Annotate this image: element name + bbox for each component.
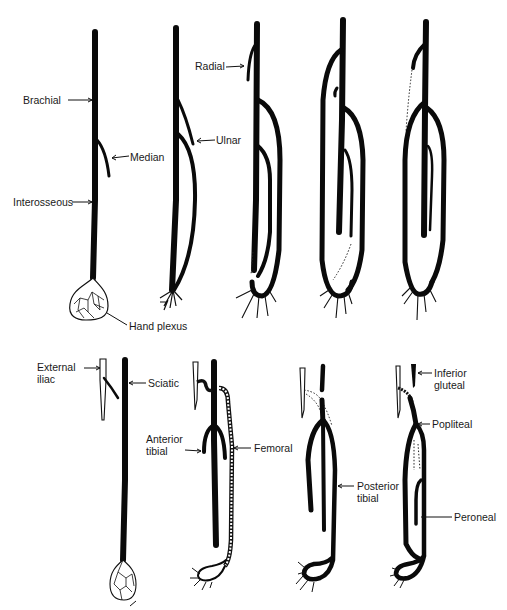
lower-stage-4: [390, 364, 452, 588]
stage4-peroneal: [416, 480, 421, 524]
label-external-iliac-line2: iliac: [37, 373, 76, 385]
label-anterior-tibial-line1: Anterior: [146, 433, 183, 445]
stage3-dotted-fem: [304, 390, 332, 426]
label-popliteal: Popliteal: [432, 418, 472, 430]
stage5-digits: [402, 286, 436, 320]
stage5-ulnar-loop: [427, 108, 444, 282]
stage4-ext-iliac: [396, 366, 400, 418]
brachial-axis-artery: [93, 32, 95, 278]
upper-stage-1: [68, 32, 129, 325]
inferior-gluteal-stub: [411, 364, 416, 388]
lower-stage-3: [296, 366, 354, 592]
foot-plexus: [110, 560, 136, 600]
label-inferior-gluteal-line2: gluteal: [434, 379, 467, 391]
stage2-hand-branches: [160, 290, 182, 310]
label-posterior-tibial-line2: tibial: [357, 492, 399, 504]
lower-stage-1: [84, 359, 146, 606]
external-iliac-bud: [100, 359, 106, 420]
external-iliac-arrow: [84, 366, 100, 370]
stage2-ext-iliac-loop: [197, 381, 212, 391]
stage4-interosseous-stub: [335, 88, 337, 96]
label-anterior-tibial-line2: tibial: [146, 445, 183, 457]
label-interosseous: Interosseous: [13, 196, 73, 208]
stage3-median-loop: [258, 146, 270, 276]
label-ulnar: Ulnar: [216, 134, 241, 146]
stage5-median: [428, 146, 432, 230]
label-posterior-tibial: Posterior tibial: [357, 480, 399, 504]
label-external-iliac: External iliac: [37, 361, 76, 385]
stage3-ext-iliac: [300, 368, 305, 418]
interosseous-arrow: [72, 200, 92, 204]
stage3-sciatic-stub: [322, 366, 323, 390]
label-median: Median: [130, 151, 164, 163]
upper-stage-5: [402, 22, 444, 320]
ulnar-arrow: [197, 138, 215, 143]
sciatic-axis-artery: [123, 360, 125, 560]
foot-plexus-arrow: [130, 601, 136, 606]
label-peroneal: Peroneal: [454, 511, 496, 523]
stage4-dotted-median-remnant: [333, 244, 351, 280]
upper-stage-3: [226, 24, 280, 318]
artery-development-diagram: [0, 0, 507, 610]
stage4-dotted-remnant: [414, 440, 420, 470]
label-anterior-tibial: Anterior tibial: [146, 433, 183, 457]
label-radial: Radial: [195, 60, 225, 72]
stage2-ext-iliac: [193, 362, 198, 410]
anterior-tibial-arrow: [185, 449, 201, 453]
stage3-mid-branch: [323, 420, 324, 530]
label-posterior-tibial-line1: Posterior: [357, 480, 399, 492]
median-arrow: [112, 155, 129, 160]
label-inferior-gluteal-line1: Inferior: [434, 367, 467, 379]
hand-plexus-arrow: [107, 313, 127, 325]
stage2-axis: [172, 28, 176, 290]
upper-stage-4: [320, 20, 363, 318]
label-sciatic: Sciatic: [148, 377, 179, 389]
label-hand-plexus: Hand plexus: [129, 320, 187, 332]
stage5-radial-loop: [405, 102, 432, 294]
stage2-sciatic: [214, 362, 216, 545]
sciatic-arrow: [129, 381, 146, 385]
inferior-gluteal-arrow: [418, 371, 432, 375]
stage3-left-branch: [308, 420, 323, 510]
posterior-tibial-arrow: [338, 484, 354, 488]
stage4-ulnar-loop: [344, 108, 363, 290]
stage4-median: [345, 150, 352, 236]
stage5-axis: [424, 22, 426, 235]
radial-arrow: [226, 64, 244, 68]
label-brachial: Brachial: [23, 94, 61, 106]
stage2-foot-loop: [198, 560, 226, 581]
brachial-arrow: [68, 98, 92, 102]
label-external-iliac-line1: External: [37, 361, 76, 373]
popliteal-arrow: [418, 422, 430, 426]
femoral-arrow: [234, 446, 251, 450]
stage4-popliteal: [410, 398, 416, 424]
lower-stage-2: [185, 362, 251, 590]
label-inferior-gluteal: Inferior gluteal: [434, 367, 467, 391]
label-femoral: Femoral: [254, 442, 293, 454]
median-artery-sprout: [97, 140, 109, 176]
